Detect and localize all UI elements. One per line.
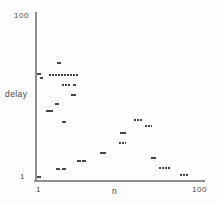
data-point-mark [40,77,43,79]
data-point-mark [159,167,170,169]
data-point-mark [180,174,188,176]
data-point-mark [73,84,76,86]
data-point-mark [145,125,152,127]
data-point-mark [49,74,78,76]
data-point-mark [62,121,66,123]
data-point-mark [151,157,156,159]
data-point-mark [55,103,59,105]
data-point-mark [77,160,81,162]
data-point-mark [62,168,66,170]
data-point-mark [46,110,53,112]
data-point-mark [100,152,106,154]
plot-marks [0,0,217,204]
data-point-mark [120,132,126,134]
data-point-mark [62,84,71,86]
scatter-plot: 100 delay 1 1 n 100 [0,0,217,204]
data-point-mark [37,73,41,75]
data-point-mark [56,168,60,170]
data-point-mark [134,119,142,121]
data-point-mark [57,62,61,64]
data-point-mark [119,142,126,144]
data-point-mark [37,176,41,178]
data-point-mark [82,160,86,162]
data-point-mark [71,94,76,96]
